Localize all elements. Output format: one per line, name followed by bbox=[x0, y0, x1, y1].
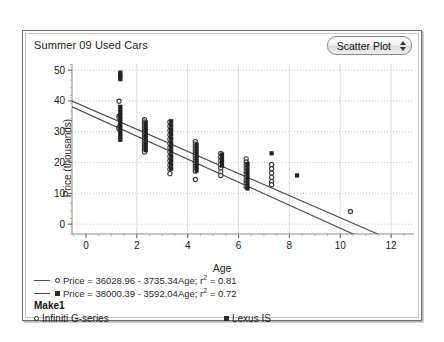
make-legend-items: Infiniti G-series Lexus IS bbox=[34, 313, 412, 324]
legend-item-label: Infiniti G-series bbox=[42, 313, 109, 324]
legend-item-label: Lexus IS bbox=[232, 313, 271, 324]
up-down-stepper-icon bbox=[400, 41, 406, 51]
svg-text:0: 0 bbox=[83, 240, 89, 251]
svg-text:6: 6 bbox=[236, 240, 242, 251]
make-legend: Make1 Infiniti G-series Lexus IS bbox=[34, 300, 412, 324]
scatter-plot-svg: 01020304050024681012 bbox=[26, 56, 422, 260]
regression-equation: Price = 38000.39 - 3592.04Age; r2 = 0.72 bbox=[63, 287, 236, 299]
regression-line-swatch bbox=[34, 280, 50, 281]
legend-item[interactable]: Infiniti G-series bbox=[34, 313, 224, 324]
scatter-plot-area: Price (thousands) 01020304050024681012 bbox=[26, 56, 422, 260]
chart-header: Summer 09 Used Cars Scatter Plot bbox=[26, 34, 418, 58]
panel-inner: Summer 09 Used Cars Scatter Plot Price (… bbox=[25, 33, 419, 318]
circle-marker-icon bbox=[55, 278, 60, 283]
svg-text:2: 2 bbox=[134, 240, 140, 251]
square-marker-icon bbox=[224, 316, 229, 321]
page-title: Summer 09 Used Cars bbox=[34, 39, 148, 51]
regression-equation: Price = 36028.96 - 3735.34Age; r2 = 0.81 bbox=[63, 274, 236, 286]
chart-window-panel: Summer 09 Used Cars Scatter Plot Price (… bbox=[22, 30, 422, 321]
svg-text:50: 50 bbox=[54, 65, 66, 76]
regression-line-swatch bbox=[34, 293, 50, 294]
make-legend-title: Make1 bbox=[34, 300, 412, 311]
regression-legend-row: Price = 36028.96 - 3735.34Age; r2 = 0.81 bbox=[34, 274, 412, 287]
square-marker-icon bbox=[55, 291, 60, 296]
svg-text:12: 12 bbox=[386, 240, 398, 251]
legend-item[interactable]: Lexus IS bbox=[224, 313, 271, 324]
plot-type-dropdown[interactable]: Scatter Plot bbox=[327, 36, 412, 55]
svg-text:0: 0 bbox=[59, 219, 65, 230]
regression-legend-row: Price = 38000.39 - 3592.04Age; r2 = 0.72 bbox=[34, 287, 412, 300]
regression-legend: Price = 36028.96 - 3735.34Age; r2 = 0.81… bbox=[34, 274, 412, 300]
svg-text:20: 20 bbox=[54, 157, 66, 168]
svg-text:30: 30 bbox=[54, 126, 66, 137]
circle-marker-icon bbox=[34, 316, 39, 321]
svg-text:10: 10 bbox=[335, 240, 347, 251]
x-axis-title: Age bbox=[26, 262, 418, 274]
plot-type-label: Scatter Plot bbox=[337, 40, 391, 52]
svg-text:10: 10 bbox=[54, 188, 66, 199]
svg-text:8: 8 bbox=[287, 240, 293, 251]
svg-text:4: 4 bbox=[185, 240, 191, 251]
svg-text:40: 40 bbox=[54, 95, 66, 106]
